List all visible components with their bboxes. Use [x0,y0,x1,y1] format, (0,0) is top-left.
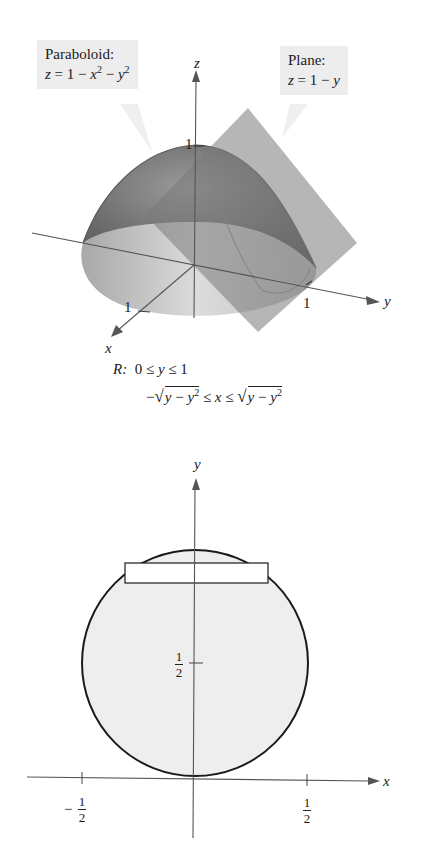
plane-callout-pointer [282,104,308,138]
paraboloid-callout: Paraboloid: z = 1 − x2 − y2 [37,40,138,89]
paraboloid-title: Paraboloid: [45,44,130,64]
radicand-right: y − y2 [248,386,282,406]
plane-title: Plane: [288,50,340,70]
paraboloid-callout-pointer [120,104,152,152]
y-axis-2d-arrow [192,478,200,490]
y-axis-2d-label: y [194,455,201,473]
x-axis-2d [27,777,370,781]
x-tick-half-label: 12 [303,796,311,825]
plane-callout: Plane: z = 1 − y [280,46,348,95]
plane-equation: z = 1 − y [288,70,340,90]
y-axis-label: y [384,292,391,310]
integration-strip [125,563,268,583]
region-line-1: R: 0 ≤ y ≤ 1 [113,360,188,378]
region-label: R: [113,361,127,377]
y-tick-label: 1 [303,294,311,312]
x-tick-neg-half-label: 12 [78,795,86,824]
x-axis-2d-label: x [383,772,390,790]
x-axis-2d-arrow [368,777,380,785]
radicand-left: y − y2 [165,386,199,406]
y-tick-half-label: 12 [175,650,183,679]
x-tick-neg-sign: − [64,800,72,818]
x-tick-label: 1 [124,298,132,316]
figure-3d [0,0,421,848]
y-axis-arrow [366,296,380,305]
x-axis-label: x [105,339,112,357]
z-axis-label: z [194,54,200,72]
z-tick-label: 1 [185,135,193,153]
region-line-2: −√y − y2 ≤ x ≤ √y − y2 [146,386,282,406]
paraboloid-equation: z = 1 − x2 − y2 [45,64,130,84]
